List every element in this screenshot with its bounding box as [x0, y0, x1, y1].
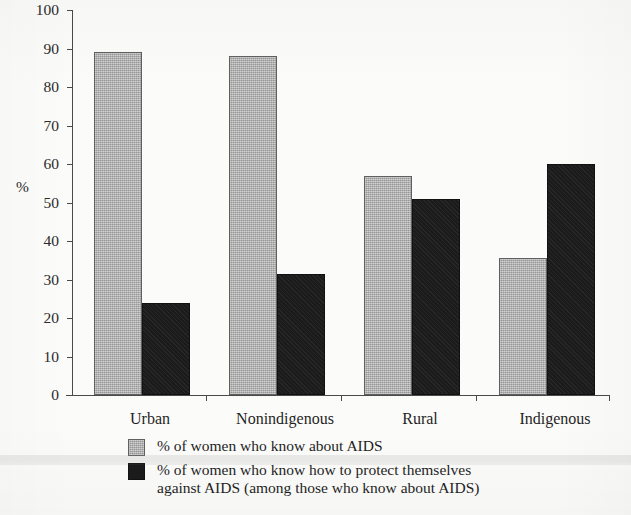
y-tick-label-100: 100 — [36, 2, 59, 18]
plot-area: 100 90 80 70 60 50 40 30 20 10 0 — [72, 10, 610, 395]
y-tick-label-90: 90 — [44, 41, 60, 57]
group-separator-4 — [609, 395, 610, 401]
y-tick-50: 50 — [67, 203, 72, 204]
y-tick-90: 90 — [67, 49, 72, 50]
y-tick-20: 20 — [67, 318, 72, 319]
bar-indigenous-know-about-aids[interactable] — [499, 258, 547, 395]
x-label-indigenous: Indigenous — [494, 410, 616, 428]
y-tick-10: 10 — [67, 357, 72, 358]
group-separator-2 — [341, 395, 342, 401]
bar-rural-know-about-aids[interactable] — [364, 176, 412, 395]
chart-page: % 100 90 80 70 60 50 40 30 20 — [0, 0, 631, 515]
bar-group-urban — [94, 10, 206, 395]
bar-rural-know-protect[interactable] — [412, 199, 460, 395]
y-tick-70: 70 — [67, 126, 72, 127]
chart-legend: % of women who know about AIDS % of wome… — [128, 437, 608, 503]
legend-item-know-about-aids[interactable]: % of women who know about AIDS — [128, 437, 608, 456]
bar-group-nonindigenous — [229, 10, 341, 395]
y-axis-title: % — [16, 178, 29, 196]
y-tick-100: 100 — [67, 10, 72, 11]
bar-group-rural — [364, 10, 476, 395]
legend-label-know-protect: % of women who know how to protect thems… — [157, 461, 479, 498]
y-tick-label-10: 10 — [44, 349, 60, 365]
legend-swatch-black-icon — [128, 463, 145, 480]
bar-nonindigenous-know-about-aids[interactable] — [229, 56, 277, 395]
y-tick-label-80: 80 — [44, 79, 60, 95]
legend-swatch-light-gray-icon — [128, 439, 145, 456]
group-separator-3 — [476, 395, 477, 401]
y-tick-80: 80 — [67, 87, 72, 88]
y-tick-label-50: 50 — [44, 195, 60, 211]
bar-urban-know-about-aids[interactable] — [94, 52, 142, 395]
group-separator-1 — [206, 395, 207, 401]
x-label-nonindigenous: Nonindigenous — [219, 410, 351, 428]
legend-label-know-about-aids: % of women who know about AIDS — [157, 437, 383, 455]
legend-item-know-protect[interactable]: % of women who know how to protect thems… — [128, 461, 608, 498]
y-tick-60: 60 — [67, 164, 72, 165]
y-tick-label-0: 0 — [51, 387, 59, 403]
x-label-urban: Urban — [94, 410, 206, 428]
legend-label-line1: % of women who know how to protect thems… — [157, 461, 471, 478]
y-tick-label-70: 70 — [44, 118, 60, 134]
bar-nonindigenous-know-protect[interactable] — [277, 274, 325, 395]
y-tick-label-20: 20 — [44, 310, 60, 326]
y-axis-line — [72, 10, 73, 396]
y-tick-40: 40 — [67, 241, 72, 242]
y-tick-label-40: 40 — [44, 233, 60, 249]
y-tick-0: 0 — [67, 395, 72, 396]
y-tick-label-60: 60 — [44, 156, 60, 172]
legend-label-line1: % of women who know about AIDS — [157, 437, 383, 454]
legend-label-line2: against AIDS (among those who know about… — [157, 479, 479, 497]
bar-urban-know-protect[interactable] — [142, 303, 190, 395]
x-axis-line — [66, 395, 610, 396]
bar-group-indigenous — [499, 10, 611, 395]
x-label-rural: Rural — [364, 410, 476, 428]
bar-indigenous-know-protect[interactable] — [547, 164, 595, 395]
y-tick-30: 30 — [67, 280, 72, 281]
y-tick-label-30: 30 — [44, 272, 60, 288]
